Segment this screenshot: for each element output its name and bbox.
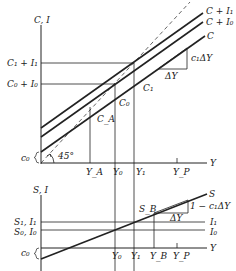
- angle-label: 45°: [57, 151, 74, 161]
- triangle-vertical-label: c₁ΔY: [191, 53, 213, 63]
- s0-i0-label: S₀, I₀: [14, 227, 37, 237]
- angle-arrow-icon: [47, 154, 51, 157]
- top-c0-label: c₀: [21, 153, 30, 163]
- bottom-x-axis-label: Y: [210, 243, 217, 253]
- tick-yp: Y_P: [173, 167, 190, 178]
- c-plus-i0-line: [41, 22, 203, 137]
- tick-ya: Y_A: [86, 167, 103, 178]
- c-plus-i0-label: C + I₀: [206, 17, 234, 27]
- bottom-tick-yb: Y_B: [150, 251, 167, 262]
- i1-label: I₁: [209, 217, 217, 227]
- c-plus-i1-line: [41, 13, 203, 128]
- bottom-tick-y0: Y₀: [112, 251, 122, 261]
- ca-label: C_A: [97, 114, 115, 125]
- mps-vertical-label: 1 − c₁ΔY: [190, 201, 231, 211]
- bottom-tick-yp: Y_P: [173, 251, 190, 262]
- top-y-axis-label: C, I: [34, 15, 50, 25]
- top-panel: [34, 2, 207, 271]
- sb-label: S_B: [139, 204, 157, 215]
- 45-degree-line: [41, 2, 190, 163]
- c0-i0-label: C₀ + I₀: [7, 79, 38, 89]
- c-plus-i1-label: C + I₁: [206, 6, 233, 16]
- i0-label: I₀: [209, 227, 218, 237]
- c0-point-label: C₀: [119, 98, 130, 108]
- mps-horizontal-label: ΔY: [169, 213, 183, 223]
- tick-y1: Y₁: [136, 167, 146, 177]
- s-label: S: [209, 189, 215, 199]
- bottom-c0-brace-icon: [34, 248, 39, 259]
- tick-y0: Y₀: [113, 167, 123, 177]
- bottom-c0-label: c₀: [21, 248, 30, 258]
- c1-i1-label: C₁ + I₁: [7, 58, 38, 68]
- c-label: C: [207, 31, 214, 41]
- c1-point-label: C₁: [143, 83, 154, 93]
- bottom-y-axis-label: S, I: [33, 185, 49, 195]
- s1-i1-label: S₁, I₁: [14, 217, 37, 227]
- c-line: [41, 36, 205, 152]
- s-line: [41, 194, 207, 259]
- c0-brace-icon: [34, 152, 39, 163]
- top-x-axis-label: Y: [210, 158, 217, 168]
- keynesian-cross-diagram: C, I Y C₁ + I₁ C₀ + I₀ c₀ C + I₁ C + I₀ …: [0, 0, 236, 271]
- mps-triangle: [154, 200, 188, 213]
- bottom-tick-y1: Y₁: [131, 251, 141, 261]
- triangle-horizontal-label: ΔY: [164, 71, 178, 81]
